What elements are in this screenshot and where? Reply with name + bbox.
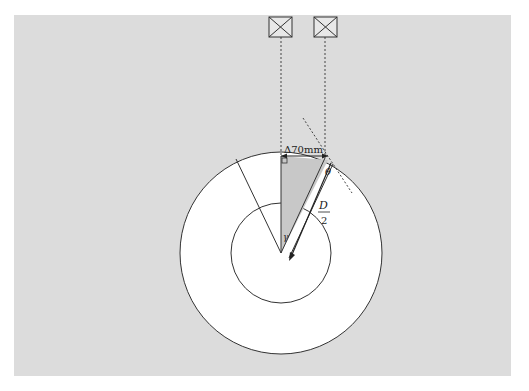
gamma-label: γ [283, 232, 289, 242]
sensor-left [269, 17, 292, 37]
dimension-label: Δ70mm [284, 144, 323, 155]
theta-label: θ [325, 166, 331, 177]
sensor-right [314, 17, 337, 37]
radius-label-numerator: D [318, 199, 328, 212]
geometry-diagram: Δ70mm θ γ D 2 [0, 0, 529, 391]
radius-label-denominator: 2 [321, 215, 327, 226]
